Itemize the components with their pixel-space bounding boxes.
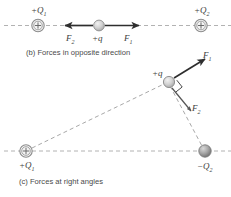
panel-b-group: +Q1 +q F2 F1 +Q2 (b) Forces in opposite … bbox=[4, 5, 231, 57]
charge-q-test-top-label: +q bbox=[92, 33, 103, 43]
charge-q1-top bbox=[32, 19, 44, 31]
force-f2-bottom-label: F2 bbox=[191, 103, 201, 115]
charge-q2-bottom bbox=[199, 145, 211, 157]
panel-b-caption: (b) Forces in opposite direction bbox=[26, 48, 130, 57]
panel-c-caption: (c) Forces at right angles bbox=[19, 177, 103, 186]
charge-q-test-top bbox=[94, 20, 105, 31]
charge-q2-bottom-sphere bbox=[199, 145, 211, 157]
force-f1-bottom-label: F1 bbox=[202, 50, 212, 62]
panel-c-group: +Q1 +q F1 F2 −Q2 (c) Forces at right an bbox=[4, 50, 231, 186]
charge-q-test-bottom-label: +q bbox=[152, 68, 163, 78]
connector-q1-to-q bbox=[32, 83, 166, 148]
right-angle-square bbox=[176, 80, 183, 92]
figure-canvas: +Q1 +q F2 F1 +Q2 (b) Forces in opposite … bbox=[0, 0, 231, 197]
connector-q-to-q2 bbox=[170, 86, 202, 146]
charge-q1-bottom-label: +Q1 bbox=[19, 160, 35, 172]
charge-q1-bottom bbox=[20, 145, 32, 157]
charge-q2-bottom-label: −Q2 bbox=[197, 161, 213, 173]
right-angle-marker bbox=[176, 80, 183, 92]
charge-q-test-bottom bbox=[163, 76, 174, 87]
charge-q-test-bottom-sphere bbox=[163, 76, 174, 87]
physics-force-diagram: +Q1 +q F2 F1 +Q2 (b) Forces in opposite … bbox=[0, 0, 231, 197]
force-f2-top-label: F2 bbox=[65, 33, 75, 45]
charge-q1-top-label: +Q1 bbox=[31, 5, 47, 17]
charge-q2-top bbox=[195, 19, 207, 31]
charge-q2-top-label: +Q2 bbox=[194, 5, 210, 17]
charge-q-test-top-sphere bbox=[94, 20, 105, 31]
force-f1-bottom-arrow bbox=[174, 59, 205, 78]
force-f1-top-label: F1 bbox=[123, 33, 133, 45]
